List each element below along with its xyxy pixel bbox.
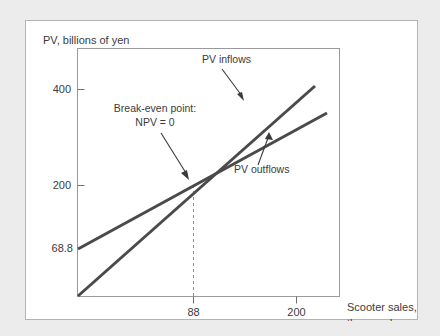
pv-outflows-arrow-head xyxy=(265,132,273,140)
break-even-arrow-head xyxy=(181,170,189,180)
x-axis-label-line2: thousands xyxy=(347,317,398,321)
series-line-pv-inflows xyxy=(78,86,315,296)
plot-frame xyxy=(78,49,340,297)
pv-inflows-leader-line xyxy=(222,69,242,96)
series-line-pv-outflows xyxy=(78,113,327,249)
y-axis-label: PV, billions of yen xyxy=(43,34,129,46)
x-tick-label-200: 200 xyxy=(287,306,305,318)
break-even-label-line1: Break-even point: xyxy=(114,102,196,114)
series-label-pv-inflows: PV inflows xyxy=(202,53,251,65)
x-axis-label-line1: Scooter sales, xyxy=(347,301,417,313)
y-tick-label-68-8: 68.8 xyxy=(52,242,73,254)
series-label-pv-outflows: PV outflows xyxy=(234,163,289,175)
break-even-label-line2: NPV = 0 xyxy=(135,116,175,128)
pv-inflows-arrow-head xyxy=(237,92,244,101)
y-tick-label-200: 200 xyxy=(53,179,71,191)
figure-card: PV, billions of yen 400 200 68.8 88 200 … xyxy=(25,20,418,320)
x-tick-label-88: 88 xyxy=(187,306,199,318)
y-tick-label-400: 400 xyxy=(53,83,71,95)
break-even-chart: PV, billions of yen 400 200 68.8 88 200 … xyxy=(26,21,419,321)
break-even-leader-line xyxy=(161,133,186,173)
